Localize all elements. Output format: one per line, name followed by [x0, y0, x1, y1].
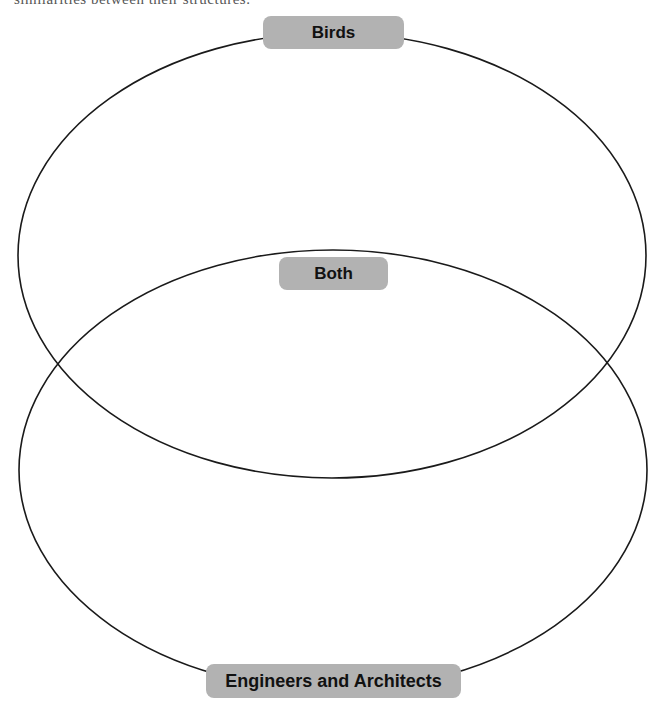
- engineers-ellipse: [19, 250, 647, 690]
- birds-ellipse: [18, 33, 646, 478]
- birds-label: Birds: [263, 16, 404, 49]
- venn-diagram: [0, 0, 666, 711]
- both-label: Both: [279, 257, 388, 290]
- engineers-architects-label: Engineers and Architects: [206, 664, 461, 698]
